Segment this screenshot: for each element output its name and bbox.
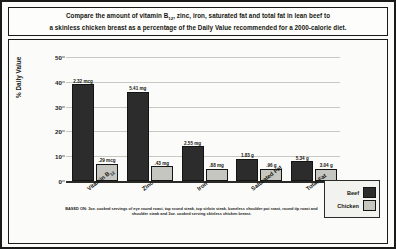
bar-beef[interactable]: 5.34 g [291, 161, 313, 181]
bar-value-label: .43 mg [155, 161, 170, 166]
chart-plot-area: % Daily Value 010203040502.32 mcg.29 mcg… [8, 39, 388, 244]
bar-beef[interactable]: 2.55 mg [182, 146, 204, 181]
chart-title-line-1-part-b: , zinc, iron, saturated fat and total fa… [173, 12, 330, 19]
y-tick-label-30: 30 [55, 103, 62, 110]
bar-value-label: .88 mg [209, 163, 224, 168]
chart-title-box: Compare the amount of vitamin B12, zinc,… [8, 7, 388, 36]
y-tick-label-50: 50 [55, 54, 62, 61]
y-tick-label-20: 20 [55, 128, 62, 135]
bar-group: 1.83 g.96 gSaturated Fat [236, 57, 285, 181]
legend-item-beef: Beef [328, 187, 376, 198]
legend-item-chicken: Chicken [328, 200, 376, 211]
y-tick-mark-30 [62, 106, 65, 107]
bar-group: 2.32 mcg.29 mcgVitamin B12 [72, 57, 121, 181]
bar-value-label: 2.32 mcg [73, 79, 93, 84]
legend-swatch-chicken-icon [363, 200, 376, 211]
bar-group: 5.41 mg.43 mgZinc [127, 57, 176, 181]
chart-footnote: BASED ON: 3oz. cooked servings of eye ro… [64, 206, 319, 216]
legend-label-chicken: Chicken [337, 203, 359, 209]
chart-legend: Beef Chicken [324, 180, 380, 218]
y-tick-label-40: 40 [55, 78, 62, 85]
chart-frame: Compare the amount of vitamin B12, zinc,… [0, 0, 396, 249]
y-tick-mark-0 [62, 181, 65, 182]
bar-beef[interactable]: 5.41 mg [127, 92, 149, 181]
plot-canvas: 010203040502.32 mcg.29 mcgVitamin B125.4… [66, 57, 340, 181]
bar-beef[interactable]: 2.32 mcg [72, 84, 94, 181]
bar-value-label: .29 mcg [98, 158, 115, 163]
y-tick-mark-20 [62, 131, 65, 132]
chart-title-line-1-part-a: Compare the amount of vitamin B [66, 12, 168, 19]
bar-group: 5.34 g3.04 gTotal Fat [291, 57, 340, 181]
bar-group: 2.55 mg.88 mgIron [182, 57, 231, 181]
bar-value-label: 5.41 mg [129, 86, 146, 91]
bar-chicken[interactable]: .43 mg [151, 166, 173, 181]
bar-value-label: 1.83 g [241, 153, 254, 158]
legend-swatch-beef-icon [363, 187, 376, 198]
bar-beef[interactable]: 1.83 g [236, 159, 258, 181]
y-axis-label: % Daily Value [15, 57, 22, 98]
bar-value-label: 2.55 mg [184, 141, 201, 146]
bar-chicken[interactable]: .88 mg [206, 169, 228, 181]
bar-value-label: 5.34 g [296, 156, 309, 161]
y-tick-mark-10 [62, 156, 65, 157]
bar-value-label: 3.04 g [320, 163, 333, 168]
y-tick-mark-50 [62, 57, 65, 58]
y-tick-label-0: 0 [59, 178, 62, 185]
y-tick-mark-40 [62, 81, 65, 82]
legend-label-beef: Beef [347, 190, 359, 196]
chart-title-line-2: a skinless chicken breast as a percentag… [49, 23, 346, 32]
chart-title-line-1: Compare the amount of vitamin B12, zinc,… [66, 11, 330, 23]
y-tick-label-10: 10 [55, 153, 62, 160]
